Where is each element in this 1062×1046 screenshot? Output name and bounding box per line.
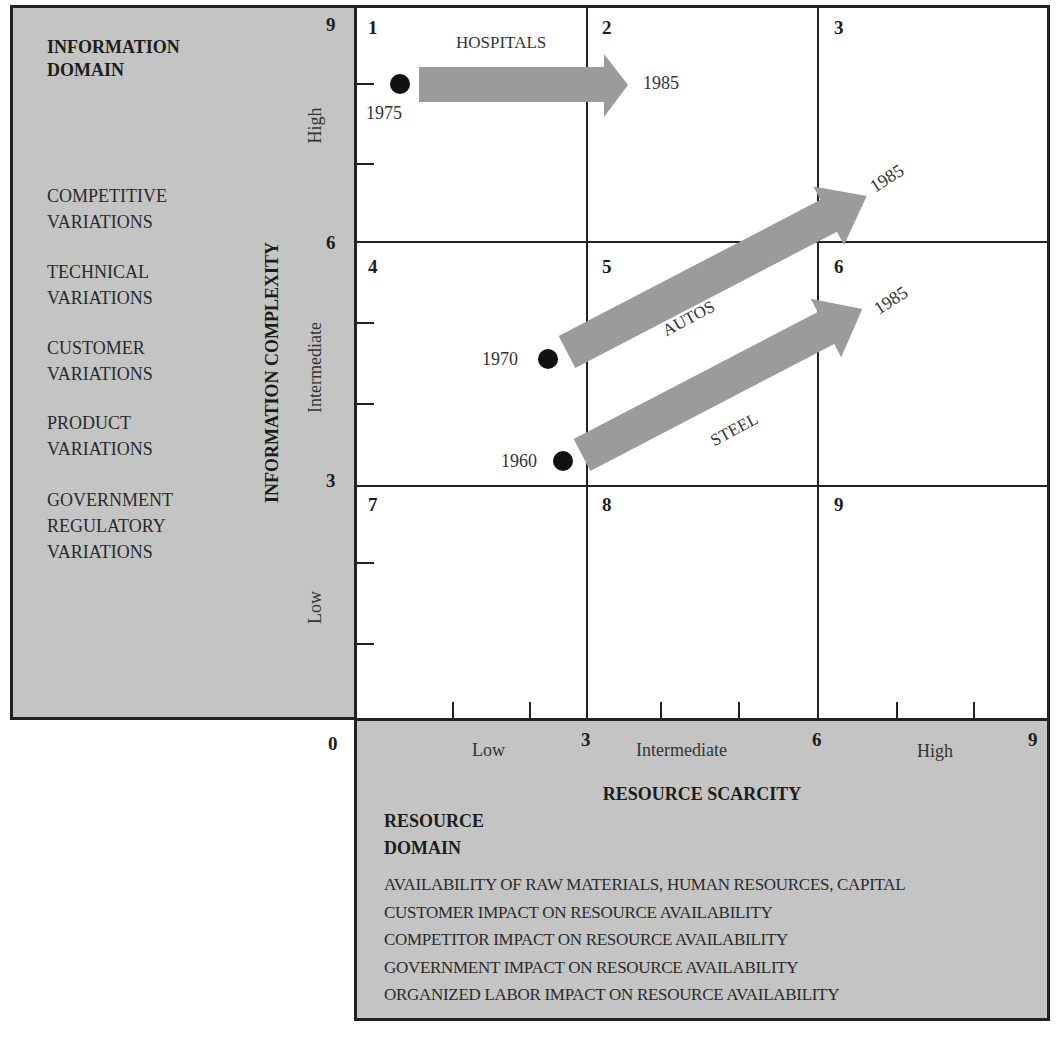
hospitals-start-year: 1975 bbox=[366, 103, 402, 124]
resource-item: GOVERNMENT IMPACT ON RESOURCE AVAILABILI… bbox=[384, 958, 798, 978]
x-tick-9: 9 bbox=[1028, 729, 1038, 751]
resource-item: AVAILABILITY OF RAW MATERIALS, HUMAN RES… bbox=[384, 875, 905, 895]
x-level-high: High bbox=[917, 741, 953, 762]
hospitals-end-year: 1985 bbox=[643, 73, 679, 94]
hospitals-start-dot bbox=[390, 74, 410, 94]
resource-title-line1: RESOURCE bbox=[384, 808, 484, 835]
autos-arrow bbox=[552, 167, 882, 382]
resource-title-line2: DOMAIN bbox=[384, 835, 484, 862]
x-tick-6: 6 bbox=[812, 729, 822, 751]
resource-item: CUSTOMER IMPACT ON RESOURCE AVAILABILITY bbox=[384, 903, 773, 923]
resource-domain-title: RESOURCE DOMAIN bbox=[384, 808, 484, 862]
resource-item: ORGANIZED LABOR IMPACT ON RESOURCE AVAIL… bbox=[384, 985, 839, 1005]
x-level-intermediate: Intermediate bbox=[636, 740, 727, 761]
autos-start-dot bbox=[538, 349, 558, 369]
x-tick-3: 3 bbox=[581, 729, 591, 751]
resource-item: COMPETITOR IMPACT ON RESOURCE AVAILABILI… bbox=[384, 930, 788, 950]
x-level-low: Low bbox=[472, 740, 505, 761]
hospitals-arrow bbox=[419, 54, 628, 117]
steel-start-year: 1960 bbox=[501, 451, 537, 472]
x-axis-title: RESOURCE SCARCITY bbox=[354, 784, 1050, 805]
autos-start-year: 1970 bbox=[482, 349, 518, 370]
steel-start-dot bbox=[553, 451, 573, 471]
hospitals-label: HOSPITALS bbox=[456, 33, 546, 53]
